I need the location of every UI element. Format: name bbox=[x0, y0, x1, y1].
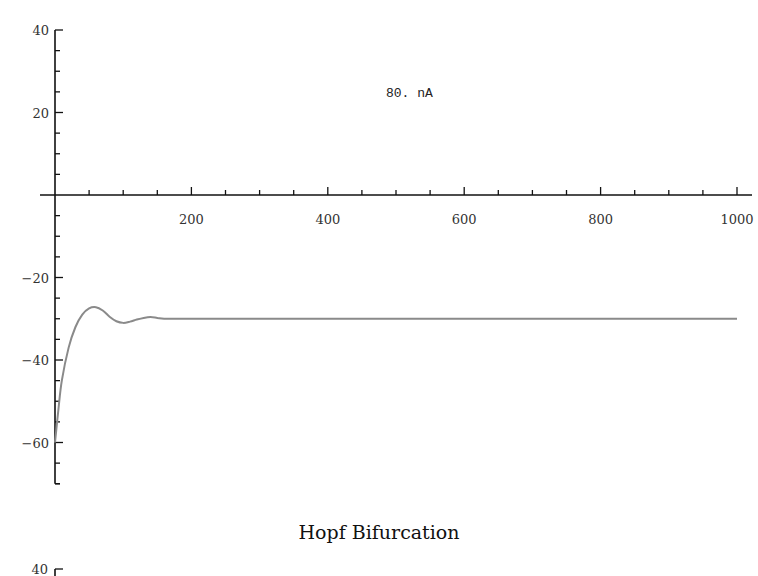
y-tick-label: 40 bbox=[32, 23, 49, 38]
chart-plot: 4020−20−40−602004006008001000 80. nA 40 bbox=[0, 0, 758, 576]
x-tick-label: 200 bbox=[179, 212, 204, 227]
current-annotation: 80. nA bbox=[386, 86, 433, 101]
x-tick-label: 800 bbox=[588, 212, 613, 227]
y-tick-label: −20 bbox=[22, 271, 49, 286]
x-tick-label: 1000 bbox=[720, 212, 753, 227]
next-panel-y-tick-label: 40 bbox=[31, 562, 48, 576]
x-tick-label: 600 bbox=[452, 212, 477, 227]
y-tick-label: −40 bbox=[22, 353, 49, 368]
data-curve bbox=[55, 307, 737, 442]
next-panel-axis: 40 bbox=[31, 562, 63, 576]
y-tick-label: 20 bbox=[32, 106, 49, 121]
figure-caption: Hopf Bifurcation bbox=[0, 521, 758, 543]
x-tick-label: 400 bbox=[315, 212, 340, 227]
voltage-trace bbox=[55, 307, 737, 442]
y-tick-label: −60 bbox=[22, 436, 49, 451]
